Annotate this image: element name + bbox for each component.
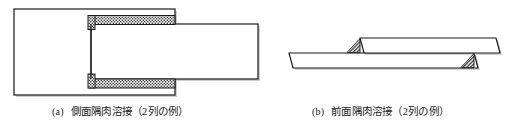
technical-drawing-figure: (a)側面隅肉溶接（2列の例） (b)前面隅肉溶接（2列の例） bbox=[0, 0, 531, 131]
panel-b-geometry bbox=[289, 38, 502, 70]
weld-bead-lower bbox=[89, 79, 175, 88]
front-plate bbox=[91, 24, 260, 81]
panel-a-geometry bbox=[14, 9, 260, 97]
upper-plate bbox=[360, 38, 502, 55]
weld-bead-upper bbox=[89, 16, 175, 25]
figure-drawing-canvas bbox=[0, 0, 531, 131]
lower-plate bbox=[289, 53, 480, 70]
weld-triangle-left bbox=[347, 39, 360, 53]
